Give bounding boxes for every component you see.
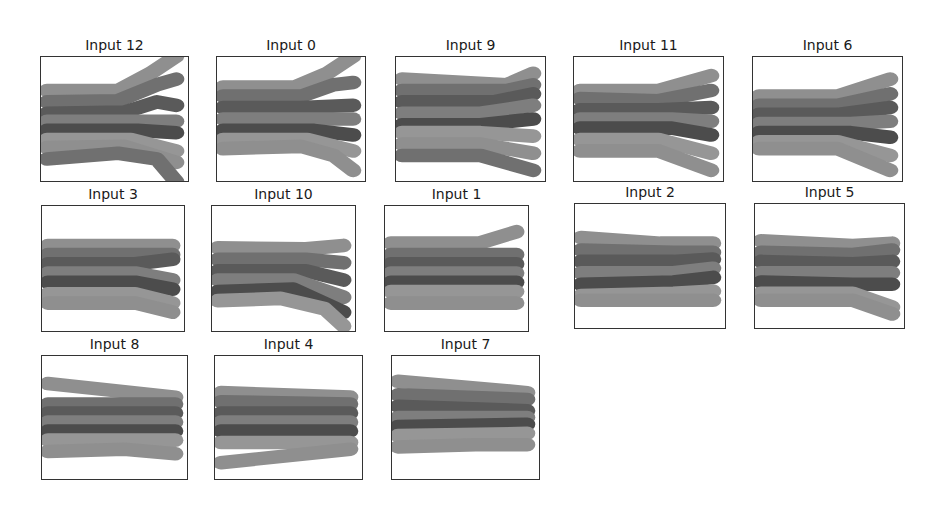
subplot-title: Input 6 (752, 37, 903, 53)
subplot-axes (384, 205, 529, 332)
subplot-title: Input 9 (395, 37, 546, 53)
subplot-axes (214, 355, 363, 480)
trajectory-line (761, 261, 892, 263)
subplot-panel: Input 10 (211, 186, 356, 333)
subplot-axes (41, 205, 185, 332)
subplot-panel: Input 7 (391, 336, 540, 481)
trajectory-line (402, 119, 533, 125)
trajectory-line (580, 119, 711, 121)
subplot-panel: Input 11 (573, 37, 724, 183)
trajectory-line (580, 108, 711, 110)
trajectory-line (223, 146, 353, 170)
subplot-title: Input 4 (214, 336, 363, 352)
trajectory-line (581, 277, 713, 284)
subplot-axes (40, 56, 189, 182)
trajectory-line (48, 384, 176, 398)
subplot-panel: Input 12 (40, 37, 189, 183)
subplot-title: Input 3 (41, 186, 185, 202)
trajectory-line (581, 237, 713, 243)
subplot-title: Input 11 (573, 37, 724, 53)
trajectory-line (761, 250, 892, 255)
subplot-title: Input 2 (574, 184, 726, 200)
trajectory-line (391, 232, 517, 244)
subplot-axes (216, 56, 366, 182)
trajectory-line (398, 433, 527, 435)
trajectory-plot (753, 57, 902, 181)
trajectory-plot (212, 206, 355, 331)
trajectory-plot (215, 356, 362, 479)
subplot-panel: Input 8 (41, 336, 188, 481)
trajectory-line (218, 246, 344, 249)
trajectory-line (581, 259, 713, 261)
subplot-axes (574, 203, 726, 329)
trajectory-line (761, 241, 892, 246)
trajectory-line (223, 105, 353, 107)
trajectory-line (48, 449, 176, 454)
trajectory-plot (385, 206, 528, 331)
trajectory-plot (217, 57, 365, 181)
trajectory-line (402, 85, 533, 91)
trajectory-line (398, 424, 527, 426)
subplot-panel: Input 4 (214, 336, 363, 481)
trajectory-line (761, 282, 892, 284)
subplot-axes (754, 203, 905, 329)
trajectory-line (759, 108, 890, 115)
trajectory-line (759, 121, 890, 123)
trajectory-plot (575, 204, 725, 328)
trajectory-line (47, 130, 176, 132)
subplot-title: Input 10 (211, 186, 356, 202)
trajectory-line (398, 445, 527, 447)
trajectory-line (218, 259, 344, 262)
trajectory-plot (42, 356, 187, 479)
subplot-title: Input 0 (216, 37, 366, 53)
trajectory-line (761, 300, 892, 314)
trajectory-line (221, 402, 350, 404)
subplot-axes (573, 56, 724, 182)
subplot-title: Input 5 (754, 184, 905, 200)
trajectory-line (402, 105, 533, 113)
trajectory-plot (42, 206, 184, 331)
trajectory-line (48, 259, 173, 264)
subplot-panel: Input 1 (384, 186, 529, 333)
trajectory-line (402, 156, 533, 171)
subplot-panel: Input 9 (395, 37, 546, 183)
subplot-title: Input 8 (41, 336, 188, 352)
subplot-axes (395, 56, 546, 182)
trajectory-plot (574, 57, 723, 181)
subplot-panel: Input 6 (752, 37, 903, 183)
subplot-panel: Input 2 (574, 184, 726, 330)
trajectory-line (581, 250, 713, 252)
subplot-axes (752, 56, 903, 182)
trajectory-line (221, 449, 350, 463)
trajectory-line (402, 133, 533, 136)
trajectory-line (47, 153, 176, 181)
subplot-axes (211, 205, 356, 332)
subplot-title: Input 7 (391, 336, 540, 352)
subplot-title: Input 12 (40, 37, 189, 53)
subplot-panel: Input 5 (754, 184, 905, 330)
trajectory-line (398, 406, 527, 411)
trajectory-line (402, 94, 533, 102)
trajectory-line (398, 395, 527, 400)
trajectory-line (48, 303, 173, 312)
subplot-panel: Input 3 (41, 186, 185, 333)
trajectory-line (218, 298, 344, 326)
trajectory-plot (396, 57, 545, 181)
trajectory-plot (41, 57, 188, 181)
subplot-axes (41, 355, 188, 480)
subplot-panel: Input 0 (216, 37, 366, 183)
trajectory-plot (392, 356, 539, 479)
trajectory-plot (755, 204, 904, 328)
subplot-title: Input 1 (384, 186, 529, 202)
subplot-axes (391, 355, 540, 480)
trajectory-line (581, 268, 713, 273)
